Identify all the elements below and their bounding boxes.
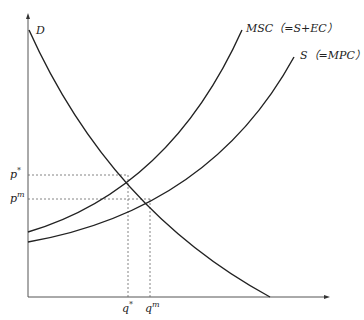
supply-label: S（=MPC） <box>300 46 364 62</box>
x-axis-arrow-icon <box>324 295 330 299</box>
demand-label: D <box>36 24 45 37</box>
msc-curve <box>28 30 242 232</box>
q-star-label: q* <box>122 300 133 315</box>
q-m-label: qm <box>145 300 160 315</box>
supply-curve <box>28 57 294 242</box>
msc-label: MSC（=S+EC） <box>246 19 338 35</box>
p-star-label: p* <box>10 166 21 181</box>
y-axis-arrow-icon <box>26 13 30 19</box>
p-m-label: pm <box>10 190 25 205</box>
